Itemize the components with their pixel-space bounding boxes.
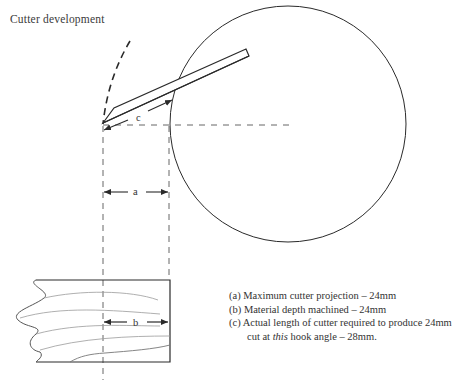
workpiece (16, 280, 170, 362)
cutter-blade (103, 49, 249, 123)
legend-emphasis: this (273, 331, 288, 342)
legend-item-b: (b) Material depth machined – 24mm (229, 303, 452, 317)
legend-text: Material depth machined – 24mm (244, 304, 386, 315)
legend-text: Actual length of cutter required to prod… (243, 317, 452, 328)
legend-item-c-continuation: cut at this hook angle – 28mm. (229, 330, 452, 344)
legend-text: hook angle – 28mm. (288, 331, 377, 342)
legend-item-c: (c) Actual length of cutter required to … (229, 316, 452, 330)
cutter-head-circle (170, 6, 406, 242)
dimension-c-label: c (136, 112, 141, 123)
legend-key: (a) (229, 290, 241, 301)
legend-key: (b) (229, 304, 241, 315)
legend: (a) Maximum cutter projection – 24mm (b)… (229, 289, 452, 343)
legend-text: cut at (247, 331, 273, 342)
legend-text: Maximum cutter projection – 24mm (243, 290, 396, 301)
dimension-a-label: a (133, 186, 138, 197)
legend-item-a: (a) Maximum cutter projection – 24mm (229, 289, 452, 303)
dimension-b-label: b (133, 317, 138, 328)
legend-key: (c) (229, 317, 241, 328)
dimension-c-arrow-end (148, 100, 172, 111)
